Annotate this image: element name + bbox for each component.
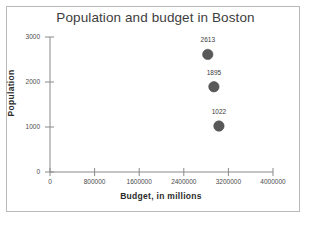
axis-lines bbox=[50, 37, 273, 172]
data-point bbox=[209, 82, 219, 92]
data-point bbox=[214, 121, 224, 131]
scatter-chart: Population and budget in Boston Populati… bbox=[0, 0, 309, 226]
data-point bbox=[203, 49, 213, 59]
data-point-label: 2613 bbox=[188, 36, 228, 43]
chart-canvas bbox=[0, 0, 309, 226]
y-tick-label: 2000 bbox=[10, 78, 40, 85]
data-markers bbox=[203, 49, 225, 131]
x-tick-label: 4000000 bbox=[245, 178, 301, 185]
y-tick-label: 1000 bbox=[10, 123, 40, 130]
data-point-label: 1895 bbox=[194, 69, 234, 76]
y-tick-label: 0 bbox=[10, 168, 40, 175]
data-point-label: 1022 bbox=[199, 108, 239, 115]
y-tick-label: 3000 bbox=[10, 33, 40, 40]
